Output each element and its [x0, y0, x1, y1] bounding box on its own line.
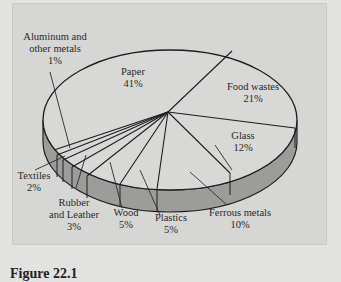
label-wood-name: Wood — [106, 207, 146, 219]
label-plastics-pct: 5% — [147, 224, 195, 236]
label-rubber-pct: 3% — [46, 221, 102, 233]
label-food-pct: 21% — [215, 93, 291, 105]
label-glass-pct: 12% — [215, 142, 271, 154]
label-aluminum-line1: Aluminum and — [14, 31, 96, 43]
label-glass-name: Glass — [215, 130, 271, 142]
label-ferrous-pct: 10% — [200, 219, 280, 231]
label-aluminum-line2: other metals — [14, 43, 96, 55]
label-plastics: Plastics 5% — [147, 212, 195, 236]
label-aluminum-pct: 1% — [14, 55, 96, 67]
label-food-wastes: Food wastes 21% — [215, 81, 291, 105]
label-textiles: Textiles 2% — [12, 170, 56, 194]
label-food-name: Food wastes — [215, 81, 291, 93]
label-textiles-name: Textiles — [12, 170, 56, 182]
label-wood-pct: 5% — [106, 219, 146, 231]
label-plastics-name: Plastics — [147, 212, 195, 224]
label-paper-pct: 41% — [108, 78, 158, 90]
label-aluminum: Aluminum and other metals 1% — [14, 31, 96, 67]
label-glass: Glass 12% — [215, 130, 271, 154]
label-ferrous-metals: Ferrous metals 10% — [200, 207, 280, 231]
label-paper: Paper 41% — [108, 66, 158, 90]
figure-caption: Figure 22.1 — [10, 266, 77, 282]
label-ferrous-name: Ferrous metals — [200, 207, 280, 219]
pie-top — [43, 50, 297, 190]
label-textiles-pct: 2% — [12, 182, 56, 194]
label-wood: Wood 5% — [106, 207, 146, 231]
label-rubber-line2: and Leather — [46, 209, 102, 221]
label-rubber-line1: Rubber — [46, 197, 102, 209]
label-rubber-leather: Rubber and Leather 3% — [46, 197, 102, 233]
label-paper-name: Paper — [108, 66, 158, 78]
